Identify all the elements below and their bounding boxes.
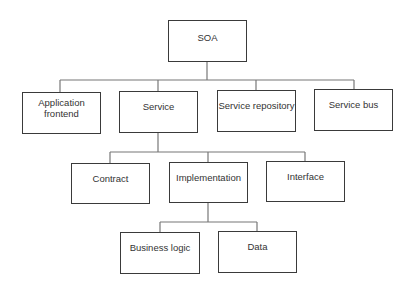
- node-soa: SOA: [168, 20, 247, 62]
- node-service-repository: Service repository: [217, 90, 296, 132]
- node-label: Service bus: [329, 99, 379, 110]
- node-data: Data: [218, 231, 297, 273]
- node-label: Business logic: [130, 242, 191, 253]
- node-label: Data: [247, 241, 267, 252]
- node-label: Service: [143, 101, 175, 112]
- node-label: Application frontend: [38, 97, 84, 119]
- soa-tree-diagram: SOA Application frontend Service Service…: [0, 0, 413, 286]
- node-application-frontend: Application frontend: [22, 92, 101, 134]
- node-implementation: Implementation: [169, 162, 248, 203]
- node-label: Interface: [287, 171, 324, 182]
- node-service: Service: [119, 91, 198, 133]
- node-label: Implementation: [176, 172, 241, 183]
- node-interface: Interface: [266, 161, 345, 202]
- node-business-logic: Business logic: [120, 232, 200, 274]
- node-service-bus: Service bus: [314, 89, 393, 131]
- node-contract: Contract: [71, 163, 150, 204]
- node-label: Contract: [93, 173, 129, 184]
- node-label: Service repository: [218, 100, 294, 111]
- node-label: SOA: [197, 32, 217, 43]
